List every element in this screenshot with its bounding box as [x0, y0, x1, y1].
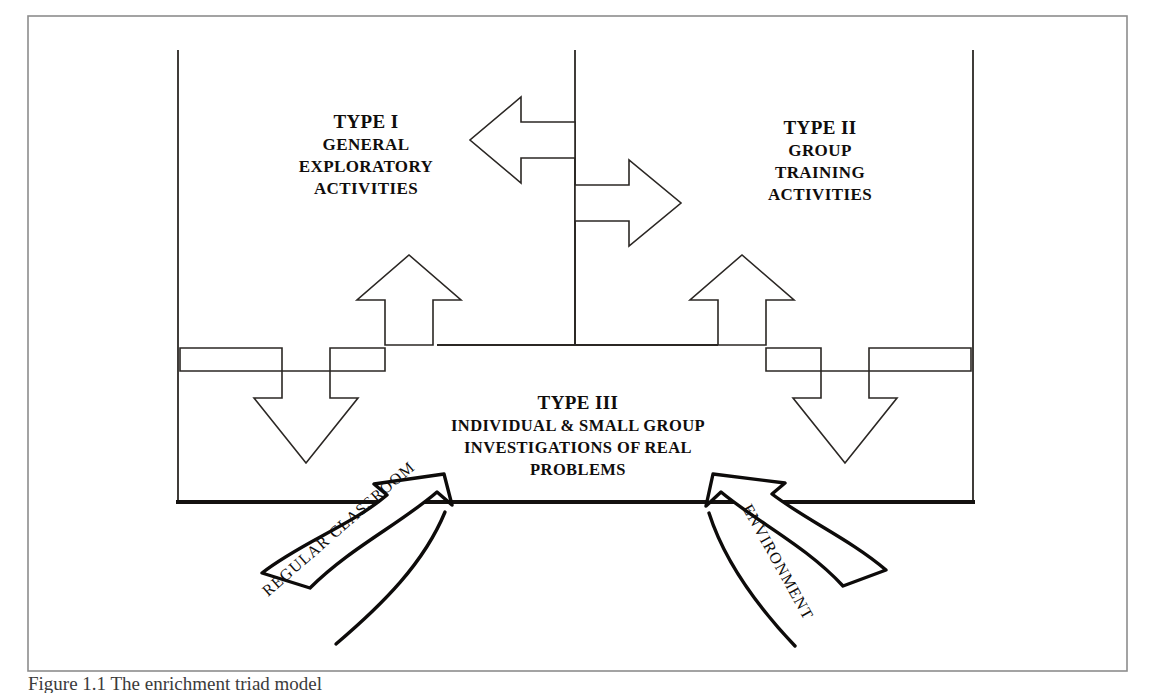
type3-label: TYPE III INDIVIDUAL & SMALL GROUP INVEST… [451, 392, 705, 479]
type3-line3: PROBLEMS [530, 460, 626, 479]
type1-line1: GENERAL [323, 135, 410, 154]
arrow-left-up [357, 255, 461, 345]
type2-line2: TRAINING [775, 163, 865, 182]
type1-line2: EXPLORATORY [299, 157, 433, 176]
type2-label: TYPE II GROUP TRAINING ACTIVITIES [768, 117, 872, 204]
type3-heading: TYPE III [538, 392, 619, 413]
enrichment-triad-diagram: TYPE I GENERAL EXPLORATORY ACTIVITIES TY… [0, 0, 1152, 693]
type3-line2: INVESTIGATIONS OF REAL [464, 438, 692, 457]
type1-label: TYPE I GENERAL EXPLORATORY ACTIVITIES [299, 111, 433, 198]
figure-page: TYPE I GENERAL EXPLORATORY ACTIVITIES TY… [0, 0, 1152, 693]
type1-heading: TYPE I [333, 111, 398, 132]
type3-line1: INDIVIDUAL & SMALL GROUP [451, 416, 705, 435]
arrow-left-down [180, 348, 385, 463]
arrow-center-right [575, 160, 681, 246]
figure-caption: Figure 1.1 The enrichment triad model [28, 673, 322, 693]
type2-heading: TYPE II [783, 117, 856, 138]
type2-line3: ACTIVITIES [768, 185, 872, 204]
outer-frame [28, 16, 1127, 671]
curved-arrow-environment [706, 474, 886, 586]
arrow-right-down [766, 348, 971, 463]
type2-line1: GROUP [788, 141, 851, 160]
arrow-right-up [690, 255, 794, 345]
arrow-center-left [470, 97, 575, 183]
type1-line3: ACTIVITIES [314, 179, 418, 198]
